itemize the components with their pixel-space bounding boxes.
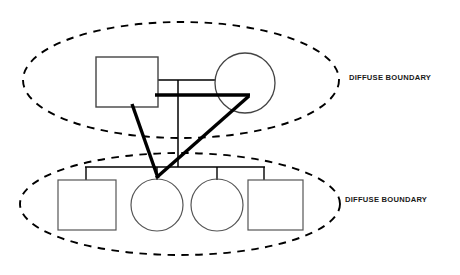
node-child-3-circle <box>191 179 243 231</box>
node-child-4-square <box>248 180 303 230</box>
lower-boundary-label: DIFFUSE BOUNDARY <box>345 195 427 204</box>
genogram-svg: DIFFUSE BOUNDARY DIFFUSE BOUNDARY <box>0 0 460 275</box>
node-child-1-square <box>58 180 116 230</box>
enmeshment-mother-to-child <box>156 96 249 178</box>
genogram-diagram-canvas: DIFFUSE BOUNDARY DIFFUSE BOUNDARY <box>0 0 460 275</box>
node-mother-circle <box>215 53 275 113</box>
node-child-2-circle <box>131 179 183 231</box>
node-father-square <box>96 57 158 107</box>
upper-boundary-label: DIFFUSE BOUNDARY <box>349 73 431 82</box>
lower-diffuse-boundary-ellipse <box>20 153 340 255</box>
